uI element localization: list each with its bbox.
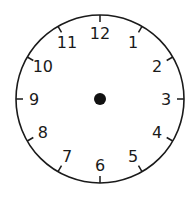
- hour-number: 2: [152, 57, 162, 76]
- hour-number: 11: [57, 33, 77, 52]
- hour-number: 7: [62, 147, 72, 166]
- center-dot: [94, 93, 106, 105]
- hour-number: 8: [38, 123, 48, 142]
- clock-face: 121234567891011: [0, 0, 193, 204]
- hour-number: 1: [128, 33, 138, 52]
- hour-number: 10: [33, 57, 53, 76]
- hour-number: 6: [95, 156, 105, 175]
- hour-number: 9: [29, 90, 39, 109]
- hour-number: 4: [152, 123, 162, 142]
- hour-number: 12: [90, 24, 110, 43]
- hour-number: 3: [161, 90, 171, 109]
- hour-number: 5: [128, 147, 138, 166]
